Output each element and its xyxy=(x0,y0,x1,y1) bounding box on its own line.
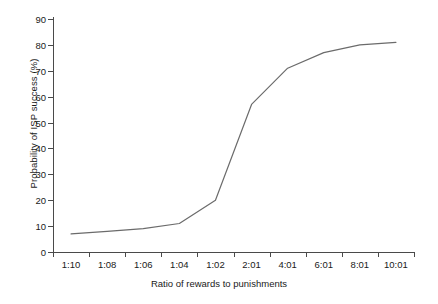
y-axis-tick-label: 30 xyxy=(2,169,46,180)
x-axis-tick xyxy=(270,252,271,257)
y-axis-tick-label: 40 xyxy=(2,143,46,154)
x-axis-tick-label: 10:01 xyxy=(372,259,420,270)
y-axis-line xyxy=(53,17,54,253)
x-axis-tick xyxy=(53,252,54,257)
y-axis-tick-label: 90 xyxy=(2,14,46,25)
y-axis-tick-label: 20 xyxy=(2,195,46,206)
x-axis-tick xyxy=(306,252,307,257)
y-axis-tick xyxy=(48,226,53,227)
y-axis-tick-label: 50 xyxy=(2,117,46,128)
x-axis-tick xyxy=(234,252,235,257)
y-axis-tick xyxy=(48,123,53,124)
y-axis-tick-labels: 0102030405060708090 xyxy=(0,0,46,304)
y-axis-tick xyxy=(48,174,53,175)
x-axis-tick xyxy=(197,252,198,257)
x-axis-title: Ratio of rewards to punishments xyxy=(0,278,438,289)
y-axis-tick xyxy=(48,71,53,72)
x-axis-tick xyxy=(89,252,90,257)
x-axis-tick xyxy=(414,252,415,257)
y-axis-tick xyxy=(48,252,53,253)
x-axis-tick xyxy=(378,252,379,257)
y-axis-tick-label: 60 xyxy=(2,91,46,102)
y-axis-tick xyxy=(48,45,53,46)
y-axis-tick-label: 70 xyxy=(2,65,46,76)
y-axis-tick xyxy=(48,148,53,149)
x-axis-tick xyxy=(125,252,126,257)
y-axis-tick xyxy=(48,200,53,201)
y-axis-tick-label: 0 xyxy=(2,247,46,258)
x-axis-tick xyxy=(342,252,343,257)
y-axis-tick xyxy=(48,97,53,98)
x-axis-tick xyxy=(161,252,162,257)
y-axis-tick-label: 10 xyxy=(2,221,46,232)
chart-figure: Probability of ISP success (%) 010203040… xyxy=(0,0,438,304)
y-axis-tick xyxy=(48,19,53,20)
y-axis-tick-label: 80 xyxy=(2,39,46,50)
